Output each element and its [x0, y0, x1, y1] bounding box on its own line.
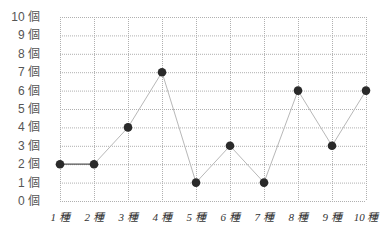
grid-lines — [60, 17, 367, 202]
line-chart: 0 個1 個2 個3 個4 個5 個6 個7 個8 個9 個10 個 1 種2 … — [0, 0, 389, 229]
y-axis-labels: 0 個1 個2 個3 個4 個5 個6 個7 個8 個9 個10 個 — [11, 10, 40, 208]
x-axis-labels: 1 種2 種3 種4 種5 種6 種7 種8 種9 種10 種 — [50, 211, 380, 223]
series-segment — [128, 72, 162, 127]
x-tick-label: 10 種 — [354, 211, 381, 223]
data-point-marker — [260, 178, 269, 187]
y-tick-label: 10 個 — [11, 10, 40, 24]
y-tick-label: 9 個 — [18, 28, 40, 42]
x-tick-label: 9 種 — [322, 211, 343, 223]
y-tick-label: 5 個 — [18, 102, 40, 116]
data-point-marker — [192, 178, 201, 187]
data-point-marker — [226, 142, 235, 151]
x-tick-label: 1 種 — [50, 211, 71, 223]
data-point-marker — [328, 142, 337, 151]
data-point-marker — [158, 68, 167, 77]
y-tick-label: 3 個 — [18, 139, 40, 153]
data-point-marker — [294, 86, 303, 95]
data-point-marker — [56, 160, 65, 169]
x-tick-label: 4 種 — [152, 211, 173, 223]
data-point-marker — [362, 86, 371, 95]
series-segment — [298, 91, 332, 146]
y-tick-label: 8 個 — [18, 47, 40, 61]
x-tick-label: 3 種 — [117, 211, 139, 223]
y-tick-label: 6 個 — [18, 84, 40, 98]
series-segment — [264, 91, 298, 183]
data-point-marker — [90, 160, 99, 169]
y-tick-label: 2 個 — [18, 157, 40, 171]
y-tick-label: 4 個 — [18, 120, 40, 134]
x-tick-label: 2 種 — [84, 211, 105, 223]
y-tick-label: 7 個 — [18, 65, 40, 79]
x-tick-label: 8 種 — [288, 211, 309, 223]
data-point-marker — [124, 123, 133, 132]
y-tick-label: 1 個 — [18, 176, 40, 190]
series-segment — [332, 91, 366, 146]
x-tick-label: 7 種 — [254, 211, 275, 223]
x-tick-label: 5 種 — [186, 211, 207, 223]
y-tick-label: 0 個 — [18, 194, 40, 208]
x-tick-label: 6 種 — [220, 211, 241, 223]
